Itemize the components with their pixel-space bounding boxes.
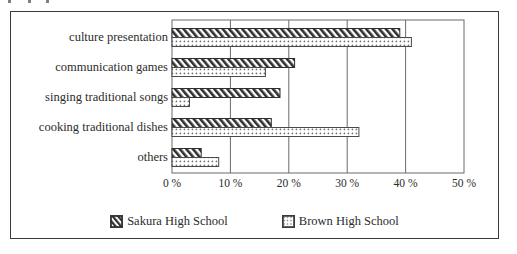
- figure-frame: culture presentation communication games…: [10, 11, 499, 239]
- xtick-label-50: 50 %: [452, 177, 476, 189]
- legend-swatch-brown: [282, 215, 295, 228]
- value-axis-labels: 0 % 10 % 20 % 30 % 40 % 50 %: [163, 177, 477, 189]
- xtick-label-10: 10 %: [218, 177, 242, 189]
- fragment-mark-2: [28, 0, 31, 3]
- xtick-label-0: 0 %: [163, 177, 182, 189]
- xtick-label-30: 30 %: [335, 177, 359, 189]
- bar-brown-culture-presentation: [172, 38, 411, 47]
- bar-sakura-singing-traditional-songs: [172, 89, 280, 98]
- fragment-mark-1: [8, 0, 11, 3]
- category-label-communication-games: communication games: [55, 60, 168, 74]
- chart-legend: Sakura High School Brown High School: [11, 215, 498, 228]
- bar-sakura-others: [172, 149, 201, 158]
- legend-label-sakura: Sakura High School: [127, 215, 228, 228]
- bar-brown-cooking-traditional-dishes: [172, 128, 359, 137]
- category-axis-labels: culture presentation communication games…: [39, 30, 169, 164]
- clipped-text-fragment: [6, 0, 66, 7]
- xtick-label-40: 40 %: [394, 177, 418, 189]
- legend-entry-sakura: Sakura High School: [110, 215, 228, 228]
- bar-brown-others: [172, 158, 219, 167]
- bar-chart: culture presentation communication games…: [11, 12, 497, 212]
- xtick-label-20: 20 %: [277, 177, 301, 189]
- category-label-culture-presentation: culture presentation: [69, 30, 169, 44]
- legend-entry-brown: Brown High School: [282, 215, 399, 228]
- bar-sakura-communication-games: [172, 59, 295, 68]
- legend-label-brown: Brown High School: [299, 215, 399, 228]
- bar-sakura-cooking-traditional-dishes: [172, 119, 271, 128]
- bar-brown-singing-traditional-songs: [172, 98, 190, 107]
- plot-area: [172, 20, 464, 173]
- bar-brown-communication-games: [172, 68, 265, 77]
- fragment-mark-3: [46, 0, 49, 3]
- bar-group-culture-presentation: [172, 29, 411, 47]
- category-label-singing-traditional-songs: singing traditional songs: [45, 90, 168, 104]
- legend-swatch-sakura: [110, 215, 123, 228]
- category-label-others: others: [137, 150, 168, 164]
- category-label-cooking-traditional-dishes: cooking traditional dishes: [39, 120, 168, 134]
- bar-sakura-culture-presentation: [172, 29, 400, 38]
